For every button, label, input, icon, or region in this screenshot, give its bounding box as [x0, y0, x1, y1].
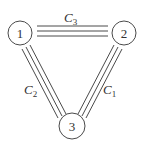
node-2: 2	[112, 21, 136, 45]
node-1-label: 1	[17, 26, 24, 41]
edge-c1-label: C1	[103, 82, 116, 99]
node-3: 3	[59, 113, 85, 139]
node-3-label: 3	[69, 119, 76, 134]
edge-c1-line-1	[78, 45, 114, 114]
edge-c1-line-2	[82, 47, 118, 116]
node-1: 1	[8, 21, 32, 45]
edge-c3-label: C3	[64, 10, 78, 27]
edge-c1: C1	[78, 45, 122, 118]
edge-c2: C2	[22, 45, 66, 118]
node-2-label: 2	[121, 26, 128, 41]
edge-c3: C3	[37, 10, 108, 36]
triple-bond-graph-diagram: C3 C2 C1 1 2 3	[0, 0, 145, 149]
edge-c2-label: C2	[24, 82, 37, 99]
edge-c2-line-3	[30, 45, 66, 114]
